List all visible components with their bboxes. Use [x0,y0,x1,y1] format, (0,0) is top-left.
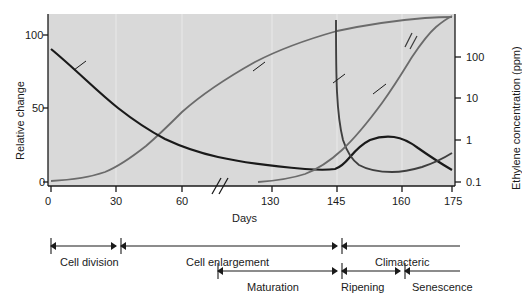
stage-brackets-row2 [217,263,460,279]
x-axis-ticks [51,186,452,192]
y-axis-right-ticks [455,57,461,182]
y-axis-left-ticks [43,35,48,182]
stage-brackets-row1 [50,238,460,254]
